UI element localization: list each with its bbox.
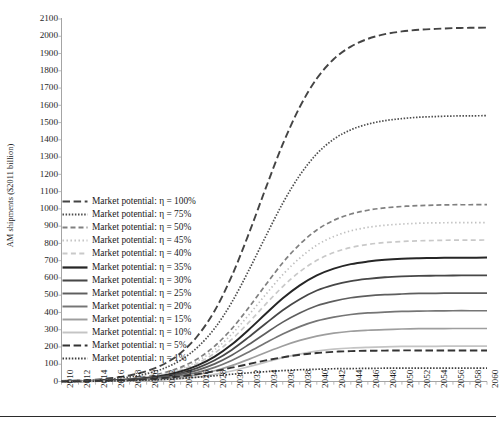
legend-item-label: Market potential: η = 100% [92, 196, 196, 207]
legend-line-swatch [62, 326, 88, 339]
y-tick-label: 1900 [24, 49, 58, 58]
legend-item-eta-1[interactable]: Market potential: η = 1% [62, 352, 262, 365]
legend-item-label: Market potential: η = 1% [92, 353, 187, 364]
y-tick-label: 100 [24, 359, 58, 368]
legend-item-eta-100[interactable]: Market potential: η = 100% [62, 195, 262, 208]
y-tick-label: 0 [24, 377, 58, 386]
legend-item-label: Market potential: η = 35% [92, 262, 191, 273]
legend-item-label: Market potential: η = 10% [92, 327, 191, 338]
y-tick-label: 1500 [24, 118, 58, 127]
legend-item-label: Market potential: η = 5% [92, 340, 187, 351]
legend-item-eta-25[interactable]: Market potential: η = 25% [62, 287, 262, 300]
y-tick-label: 2100 [24, 14, 58, 23]
legend-item-eta-40[interactable]: Market potential: η = 40% [62, 247, 262, 260]
footer-divider [0, 416, 496, 417]
legend-line-swatch [62, 195, 88, 208]
y-tick-label: 1300 [24, 152, 58, 161]
legend-item-eta-10[interactable]: Market potential: η = 10% [62, 326, 262, 339]
legend-line-swatch [62, 208, 88, 221]
y-tick-label: 1600 [24, 101, 58, 110]
y-tick-label: 1100 [24, 187, 58, 196]
legend-line-swatch [62, 221, 88, 234]
y-tick-label: 1000 [24, 204, 58, 213]
legend-item-label: Market potential: η = 45% [92, 235, 191, 246]
legend-line-swatch [62, 313, 88, 326]
legend-line-swatch [62, 339, 88, 352]
y-tick-label: 1700 [24, 83, 58, 92]
legend-item-eta-35[interactable]: Market potential: η = 35% [62, 260, 262, 273]
y-tick-label: 1200 [24, 170, 58, 179]
y-tick-label: 500 [24, 290, 58, 299]
legend-line-swatch [62, 234, 88, 247]
y-tick-label: 700 [24, 256, 58, 265]
legend-item-eta-20[interactable]: Market potential: η = 20% [62, 300, 262, 313]
y-tick-label: 600 [24, 273, 58, 282]
legend-line-swatch [62, 261, 88, 274]
y-tick-label: 200 [24, 342, 58, 351]
y-tick-label: 2000 [24, 31, 58, 40]
y-tick-label: 1400 [24, 135, 58, 144]
legend-line-swatch [62, 274, 88, 287]
legend-line-swatch [62, 247, 88, 260]
legend-line-swatch [62, 300, 88, 313]
y-tick-label: 400 [24, 308, 58, 317]
legend-item-eta-45[interactable]: Market potential: η = 45% [62, 234, 262, 247]
legend-item-eta-50[interactable]: Market potential: η = 50% [62, 221, 262, 234]
y-tick-label: 800 [24, 239, 58, 248]
legend-line-swatch [62, 352, 88, 365]
legend-item-eta-30[interactable]: Market potential: η = 30% [62, 274, 262, 287]
legend-item-eta-15[interactable]: Market potential: η = 15% [62, 313, 262, 326]
y-tick-label: 300 [24, 325, 58, 334]
legend-item-label: Market potential: η = 20% [92, 301, 191, 312]
legend-item-label: Market potential: η = 75% [92, 209, 191, 220]
legend-item-label: Market potential: η = 15% [92, 314, 191, 325]
legend-item-eta-5[interactable]: Market potential: η = 5% [62, 339, 262, 352]
legend-item-label: Market potential: η = 50% [92, 222, 191, 233]
chart-legend: Market potential: η = 100%Market potenti… [62, 195, 262, 365]
legend-line-swatch [62, 287, 88, 300]
legend-item-label: Market potential: η = 25% [92, 288, 191, 299]
y-axis-tick-labels: 0100200300400500600700800900100011001200… [22, 0, 58, 390]
legend-item-eta-75[interactable]: Market potential: η = 75% [62, 208, 262, 221]
legend-item-label: Market potential: η = 40% [92, 248, 191, 259]
y-tick-label: 1800 [24, 66, 58, 75]
y-tick-label: 900 [24, 221, 58, 230]
legend-item-label: Market potential: η = 30% [92, 275, 191, 286]
